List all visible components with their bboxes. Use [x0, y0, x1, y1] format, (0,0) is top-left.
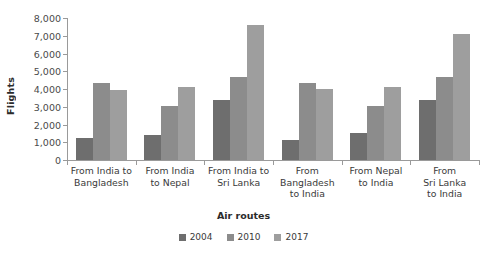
x-axis-category-label: From India toSri Lanka	[204, 165, 273, 188]
x-axis-category-label-line: From India to	[67, 165, 136, 177]
plot-area	[67, 18, 479, 160]
bar-2010	[161, 106, 178, 160]
y-axis-tick-label: 7,000	[34, 30, 61, 41]
legend-label: 2004	[190, 232, 213, 242]
bar-2017	[178, 87, 195, 160]
y-axis-tick-label: 2,000	[34, 119, 61, 130]
bar-2004	[144, 135, 161, 160]
y-axis-tick-label: 3,000	[34, 101, 61, 112]
x-axis-category-label-line: to Nepal	[136, 177, 205, 189]
x-axis-category-label-line: From	[273, 165, 342, 177]
bar-group-bars	[204, 18, 273, 160]
bar-group	[342, 18, 411, 160]
legend-label: 2017	[285, 232, 308, 242]
bar-2017	[110, 90, 127, 160]
bar-group	[410, 18, 479, 160]
x-axis-category-label-line: From Nepal	[342, 165, 411, 177]
bar-group	[273, 18, 342, 160]
bar-chart: Flights 01,0002,0003,0004,0005,0006,0007…	[0, 0, 487, 257]
bar-2017	[247, 25, 264, 160]
x-axis-category-label-line: to India	[410, 188, 479, 200]
bar-2010	[299, 83, 316, 160]
x-axis-category-label: From India toBangladesh	[67, 165, 136, 188]
x-axis-category-label-line: Bangladesh	[273, 177, 342, 189]
bar-group	[136, 18, 205, 160]
y-axis-title: Flights	[2, 56, 18, 136]
x-axis-category-label: FromBangladeshto India	[273, 165, 342, 200]
x-axis-title: Air routes	[0, 210, 487, 221]
bar-2004	[213, 100, 230, 160]
bar-2004	[282, 140, 299, 160]
bar-group-bars	[136, 18, 205, 160]
bar-group-bars	[67, 18, 136, 160]
y-axis-tick-label: 4,000	[34, 84, 61, 95]
bar-group-bars	[342, 18, 411, 160]
x-axis-category-label-line: From	[410, 165, 479, 177]
legend-swatch-icon	[179, 234, 186, 241]
legend-item-2017[interactable]: 2017	[274, 232, 308, 242]
x-axis-category-label-line: From India to	[204, 165, 273, 177]
bar-2010	[230, 77, 247, 160]
x-axis-category-label-line: From India	[136, 165, 205, 177]
bar-2004	[76, 138, 93, 160]
y-axis-tick-label: 6,000	[34, 48, 61, 59]
bar-group-bars	[273, 18, 342, 160]
bar-2017	[316, 89, 333, 160]
y-axis-tick-label: 5,000	[34, 66, 61, 77]
bar-2010	[436, 77, 453, 160]
bar-2004	[419, 100, 436, 160]
bar-2004	[350, 133, 367, 160]
bar-group	[204, 18, 273, 160]
legend-item-2004[interactable]: 2004	[179, 232, 213, 242]
bar-group-bars	[410, 18, 479, 160]
x-axis-category-label-line: Sri Lanka	[410, 177, 479, 189]
x-axis-category-label-line: Bangladesh	[67, 177, 136, 189]
x-axis-category-label-line: Sri Lanka	[204, 177, 273, 189]
chart-legend: 200420102017	[0, 232, 487, 242]
x-axis-category-label: FromSri Lankato India	[410, 165, 479, 200]
y-axis-tick-label: 8,000	[34, 13, 61, 24]
x-axis-category-label-line: to India	[342, 177, 411, 189]
bar-2010	[93, 83, 110, 160]
x-axis-category-label-line: to India	[273, 188, 342, 200]
legend-swatch-icon	[227, 234, 234, 241]
bar-2017	[453, 34, 470, 160]
bar-2017	[384, 87, 401, 160]
x-axis-category-label: From Indiato Nepal	[136, 165, 205, 188]
x-axis-category-label: From Nepalto India	[342, 165, 411, 188]
legend-swatch-icon	[274, 234, 281, 241]
x-axis-separator	[479, 160, 480, 165]
bar-group	[67, 18, 136, 160]
legend-label: 2010	[238, 232, 261, 242]
legend-item-2010[interactable]: 2010	[227, 232, 261, 242]
bar-2010	[367, 106, 384, 160]
y-axis-tick-label: 0	[55, 155, 61, 166]
y-axis-tick-label: 1,000	[34, 137, 61, 148]
